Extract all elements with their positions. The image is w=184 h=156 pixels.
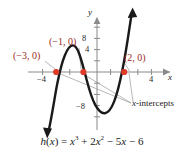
function-equation-caption: h(x) = x3 + 2x2 − 5x − 6 <box>0 134 184 147</box>
curve-arrow-up <box>128 8 138 19</box>
y-tick-label-neg8: −8 <box>76 102 85 111</box>
equation-equals: = <box>58 135 70 147</box>
marker-root-2 <box>121 69 127 75</box>
point-label-root-neg3: (−3, 0) <box>13 51 40 61</box>
graph-canvas <box>0 0 184 156</box>
y-axis-label: y <box>88 8 92 17</box>
equation-minus-6: − 6 <box>126 135 143 147</box>
y-tick-label-8: 8 <box>82 34 86 43</box>
y-axis-arrowhead <box>94 17 101 24</box>
x-axis-label: x <box>168 73 172 82</box>
leader-line-label-neg3 <box>45 61 56 70</box>
marker-root-neg1 <box>80 69 86 75</box>
point-label-root-neg1: (−1, 0) <box>49 37 76 47</box>
cubic-graph-figure: y x 8 4 −8 −4 4 (−3, 0) (−1, 0) (2, 0) x… <box>0 0 184 156</box>
point-label-root-2: (2, 0) <box>124 53 146 63</box>
y-tick-label-4: 4 <box>85 45 89 54</box>
marker-root-neg3 <box>53 69 59 75</box>
x-intercepts-annotation-rest: -intercepts <box>136 98 174 108</box>
x-tick-label-4: 4 <box>149 75 153 84</box>
x-intercepts-annotation: x-intercepts <box>132 99 174 108</box>
x-tick-label-neg4: −4 <box>37 75 46 84</box>
equation-minus-5: − 5 <box>104 135 121 147</box>
equation-plus-2: + 2 <box>78 135 95 147</box>
